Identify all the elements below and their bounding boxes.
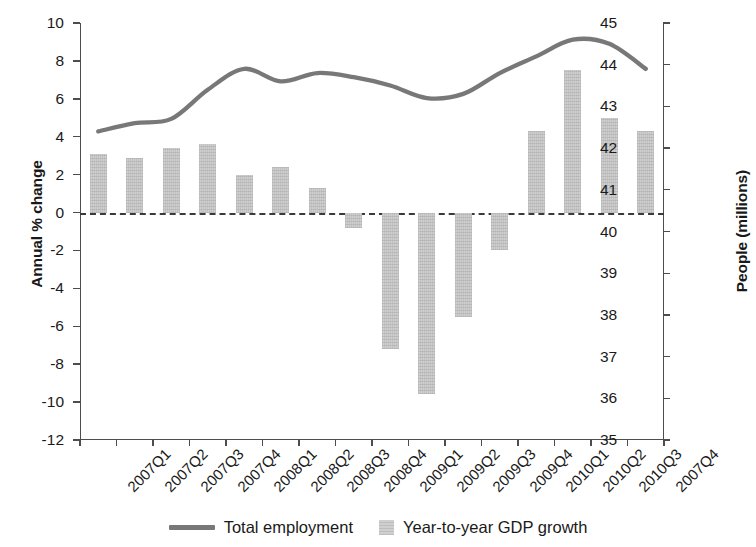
y-axis-right-tick-label: 35 [600, 432, 617, 448]
y-axis-right-tick [663, 147, 670, 148]
y-axis-left-tick-label: 2 [55, 167, 64, 183]
y-axis-right-tick [663, 398, 670, 399]
x-axis-tick [517, 439, 518, 446]
y-axis-right-tick-label: 44 [600, 57, 617, 73]
y-axis-right-tick [663, 106, 670, 107]
y-axis-right-tick-label: 36 [600, 390, 617, 406]
x-axis-tick [225, 439, 226, 446]
y-axis-right-tick [663, 273, 670, 274]
y-axis-right-tick-label: 40 [600, 224, 617, 240]
legend-item-gdp-growth: Year-to-year GDP growth [379, 518, 587, 537]
chart-container: Annual % change People (millions) 108642… [0, 0, 756, 547]
x-axis-tick [262, 439, 263, 446]
y-axis-right-tick [663, 64, 670, 65]
y-axis-left-tick-label: 4 [55, 129, 64, 145]
y-axis-left-tick [73, 401, 80, 402]
y-axis-left-tick [73, 174, 80, 175]
y-axis-left-tick [73, 212, 80, 213]
plot-area [80, 23, 664, 440]
x-axis-tick [444, 439, 445, 446]
x-axis-tick [554, 439, 555, 446]
y-axis-left-tick [73, 98, 80, 99]
x-axis-tick [79, 439, 80, 446]
y-axis-left-tick-label: -2 [50, 242, 64, 258]
y-axis-left-tick-label: 0 [55, 205, 64, 221]
y-axis-right-tick-label: 41 [600, 182, 617, 198]
x-axis-tick [116, 439, 117, 446]
total-employment-line-path [98, 39, 646, 132]
legend-label-gdp-growth: Year-to-year GDP growth [403, 518, 587, 537]
y-axis-left-tick [73, 363, 80, 364]
x-axis-tick [408, 439, 409, 446]
x-axis-tick [335, 439, 336, 446]
x-axis-tick [152, 439, 153, 446]
x-axis-tick [663, 439, 664, 446]
y-axis-left-tick-label: 8 [55, 53, 64, 69]
y-axis-right-tick [663, 231, 670, 232]
legend-label-total-employment: Total employment [224, 518, 353, 537]
x-axis-tick [189, 439, 190, 446]
x-axis-tick [371, 439, 372, 446]
y-axis-left-title: Annual % change [28, 124, 46, 324]
y-axis-right-tick-label: 43 [600, 98, 617, 114]
chart-legend: Total employment Year-to-year GDP growth [0, 518, 756, 537]
x-axis-tick [298, 439, 299, 446]
y-axis-right-tick-label: 38 [600, 307, 617, 323]
line-swatch-icon [169, 525, 215, 529]
y-axis-right-tick [663, 189, 670, 190]
y-axis-left-tick [73, 326, 80, 327]
y-axis-left-tick-label: -6 [50, 318, 64, 334]
y-axis-left-tick-label: -8 [50, 356, 64, 372]
y-axis-left-tick-label: -10 [42, 394, 64, 410]
y-axis-left-tick [73, 288, 80, 289]
y-axis-left-tick-label: -12 [42, 432, 64, 448]
y-axis-left-tick [73, 22, 80, 23]
legend-item-total-employment: Total employment [169, 518, 353, 537]
y-axis-left-tick-label: -4 [50, 280, 64, 296]
x-axis-tick [627, 439, 628, 446]
y-axis-right-tick [663, 356, 670, 357]
y-axis-left-tick [73, 250, 80, 251]
y-axis-left-tick-label: 10 [47, 15, 64, 31]
y-axis-right-tick-label: 45 [600, 15, 617, 31]
y-axis-right-title: People (millions) [733, 126, 751, 336]
bar-swatch-icon [379, 520, 394, 535]
y-axis-right-tick-label: 42 [600, 140, 617, 156]
y-axis-right-tick [663, 22, 670, 23]
y-axis-right-tick-label: 39 [600, 265, 617, 281]
y-axis-left-tick [73, 136, 80, 137]
y-axis-right-tick [663, 314, 670, 315]
x-axis-tick [590, 439, 591, 446]
x-axis-tick [481, 439, 482, 446]
y-axis-left-tick-label: 6 [55, 91, 64, 107]
y-axis-right-tick-label: 37 [600, 349, 617, 365]
line-series-total-employment [80, 23, 664, 440]
y-axis-left-tick [73, 60, 80, 61]
